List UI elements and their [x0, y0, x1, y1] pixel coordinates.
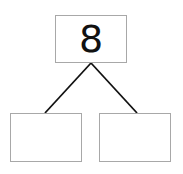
connector-right [91, 63, 137, 113]
whole-box: 8 [55, 15, 127, 63]
part-box-right[interactable] [99, 113, 171, 162]
part-box-left[interactable] [10, 113, 82, 162]
connector-left [45, 63, 91, 113]
whole-number: 8 [79, 20, 103, 58]
